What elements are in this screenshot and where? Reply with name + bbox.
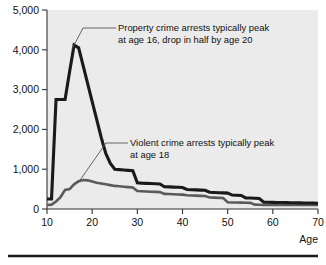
x-tick-label: 30 [131,216,143,228]
y-tick-label: 3,000 [13,83,39,95]
x-tick-label: 60 [267,216,279,228]
violent-annotation-line1: Violent crime arrests typically peak [130,137,274,148]
chart-figure: 01,0002,0003,0004,0005,000 1020304050607… [0,0,326,265]
x-axis-title: Age [299,233,318,245]
x-tick-label: 50 [222,216,234,228]
x-tick-label: 70 [312,216,324,228]
y-tick-label: 4,000 [13,44,39,56]
x-tick-label: 40 [177,216,189,228]
violent-annotation-line2: at age 18 [130,149,169,160]
y-tick-label: 2,000 [13,123,39,135]
property-annotation-line2: at age 16, drop in half by age 20 [118,34,252,45]
x-tick-label: 10 [41,216,53,228]
y-tick-label: 0 [33,203,39,215]
x-tick-label: 20 [86,216,98,228]
y-tick-label: 5,000 [13,4,39,16]
y-tick-label: 1,000 [13,163,39,175]
property-annotation: Property crime arrests typically peak at… [118,22,269,45]
property-annotation-line1: Property crime arrests typically peak [118,22,269,33]
age-crime-arrest-rate-chart: 01,0002,0003,0004,0005,000 1020304050607… [0,0,326,265]
